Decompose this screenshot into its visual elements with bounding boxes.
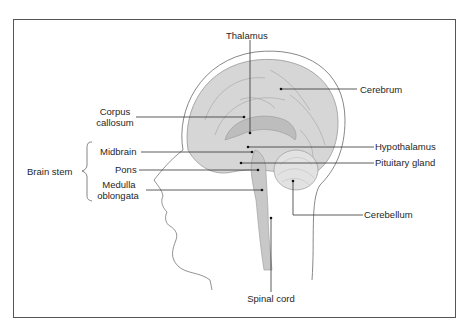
head-profile-outline [154, 150, 212, 290]
label-cerebrum: Cerebrum [360, 85, 402, 95]
label-corpus-callosum-line1: Corpus [94, 107, 136, 117]
label-brain-stem: Brain stem [27, 167, 72, 177]
label-cerebellum: Cerebellum [364, 210, 413, 220]
label-pituitary-gland: Pituitary gland [375, 158, 435, 168]
label-medulla-line1: Medulla [96, 180, 142, 190]
label-medulla-line2: oblongata [92, 191, 144, 201]
label-spinal-cord: Spinal cord [241, 294, 301, 304]
label-hypothalamus: Hypothalamus [375, 142, 436, 152]
cerebellum-shape [274, 150, 318, 190]
label-pons: Pons [115, 165, 137, 175]
label-thalamus: Thalamus [226, 31, 268, 41]
brain-stem-brace [82, 142, 92, 201]
label-midbrain: Midbrain [100, 147, 136, 157]
label-corpus-callosum-line2: callosum [92, 118, 138, 128]
